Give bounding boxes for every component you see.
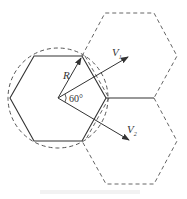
lower-right-cell [82, 98, 177, 184]
dashed-extension-lower [85, 98, 109, 141]
v1-label: V1 [112, 46, 122, 60]
v1-label-sub: 1 [119, 54, 122, 60]
caption-placeholder [40, 190, 140, 194]
radius-label: R [62, 69, 70, 81]
v2-label-sub: 2 [134, 131, 137, 137]
upper-right-cell [82, 13, 177, 98]
angle-arc [65, 94, 66, 102]
v2-label: V2 [127, 123, 137, 137]
v2-vector [58, 98, 129, 140]
hexagon-cell-diagram: R V1 V2 60° [0, 0, 187, 199]
angle-label: 60° [69, 93, 83, 104]
dashed-extension-upper [85, 56, 109, 98]
